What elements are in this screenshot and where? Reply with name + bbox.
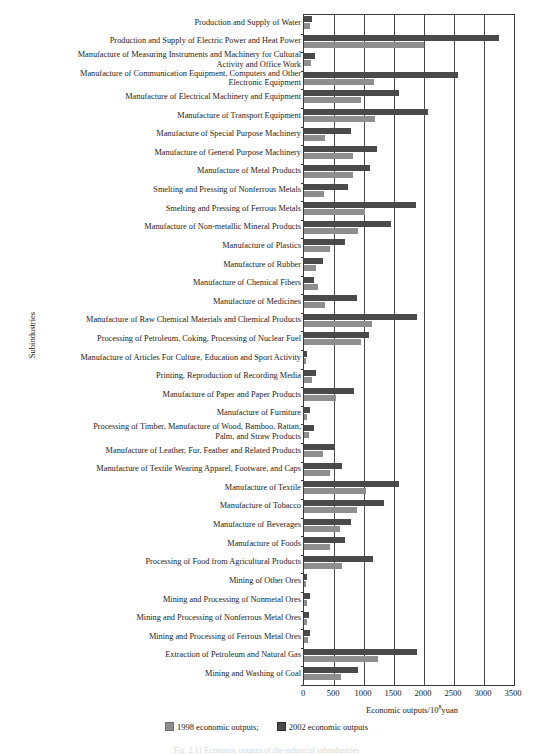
- category-label-line: Manufacture of Foods: [34, 539, 301, 549]
- bar-2002: [304, 593, 310, 599]
- category-label-line: Mining and Processing of Nonmetal Ores: [34, 595, 301, 605]
- category-label: Manufacture of Metal Products: [34, 166, 301, 176]
- bar-row: [304, 592, 514, 611]
- y-tickmark: [301, 462, 304, 463]
- bar-2002: [304, 146, 377, 152]
- y-tickmark: [301, 276, 304, 277]
- y-tickmark: [301, 313, 304, 314]
- bar-1998: [304, 60, 311, 66]
- bar-2002: [304, 630, 310, 636]
- bar-row: [304, 201, 514, 220]
- bar-2002: [304, 612, 309, 618]
- bar-row: [304, 294, 514, 313]
- bar-2002: [304, 128, 351, 134]
- x-tick-label: 2000: [415, 688, 432, 698]
- category-label: Mining and Processing of Ferrous Metal O…: [34, 632, 301, 642]
- bar-row: [304, 276, 514, 295]
- bar-2002: [304, 16, 312, 22]
- category-label: Mining and Processing of Nonferrous Meta…: [34, 613, 301, 623]
- category-label-line: Electronic Equipment: [34, 78, 301, 88]
- chart-figure: Subindustries Production and Supply of W…: [0, 0, 533, 754]
- category-label-line: Manufacture of Articles For Culture, Edu…: [34, 353, 301, 363]
- category-label-line: Printing, Reproduction of Recording Medi…: [34, 371, 301, 381]
- category-label-line: Manufacture of Leather, Fur, Feather and…: [34, 446, 301, 456]
- bar-2002: [304, 202, 416, 208]
- bar-row: [304, 350, 514, 369]
- category-label: Smelting and Pressing of Nonferrous Meta…: [34, 185, 301, 195]
- y-tickmark: [301, 369, 304, 370]
- bar-row: [304, 629, 514, 648]
- category-label: Manufacture of Medicines: [34, 297, 301, 307]
- bar-2002: [304, 72, 458, 78]
- bar-1998: [304, 414, 307, 420]
- bar-row: [304, 164, 514, 183]
- y-tickmark: [301, 164, 304, 165]
- category-label-line: Mining and Processing of Nonferrous Meta…: [34, 613, 301, 623]
- category-label-line: Manufacture of Medicines: [34, 297, 301, 307]
- bar-1998: [304, 265, 316, 271]
- category-label: Processing of Food from Agricultural Pro…: [34, 557, 301, 567]
- category-label-line: Processing of Food from Agricultural Pro…: [34, 557, 301, 567]
- bar-row: [304, 666, 514, 685]
- category-label: Manufacture of Non-metallic Mineral Prod…: [34, 222, 301, 232]
- bar-1998: [304, 209, 365, 215]
- bar-2002: [304, 388, 354, 394]
- category-label-line: Activity and Office Work: [34, 60, 301, 70]
- category-label-line: Smelting and Pressing of Ferrous Metals: [34, 204, 301, 214]
- bar-1998: [304, 470, 330, 476]
- bar-row: [304, 52, 514, 71]
- category-label-line: Manufacture of Metal Products: [34, 166, 301, 176]
- y-tickmark: [301, 34, 304, 35]
- bar-row: [304, 536, 514, 555]
- bar-1998: [304, 563, 342, 569]
- category-label-line: Manufacture of Raw Chemical Materials an…: [34, 315, 301, 325]
- category-label-line: Manufacture of Beverages: [34, 520, 301, 530]
- y-tickmark: [301, 52, 304, 53]
- bar-1998: [304, 302, 325, 308]
- y-tickmark: [301, 480, 304, 481]
- bar-2002: [304, 90, 399, 96]
- y-tickmark: [301, 443, 304, 444]
- category-label: Manufacture of Tobacco: [34, 501, 301, 511]
- bar-1998: [304, 23, 310, 29]
- bar-row: [304, 369, 514, 388]
- category-label: Extraction of Petroleum and Natural Gas: [34, 650, 301, 660]
- bar-2002: [304, 332, 369, 338]
- bar-1998: [304, 451, 323, 457]
- category-label: Manufacture of General Purpose Machinery: [34, 148, 301, 158]
- y-tickmark: [301, 406, 304, 407]
- category-label: Manufacture of Measuring Instruments and…: [34, 50, 301, 69]
- bar-row: [304, 127, 514, 146]
- bar-1998: [304, 600, 307, 606]
- y-tickmark: [301, 629, 304, 630]
- bar-1998: [304, 228, 358, 234]
- bar-row: [304, 648, 514, 667]
- bar-1998: [304, 153, 353, 159]
- category-label: Mining and Processing of Nonmetal Ores: [34, 595, 301, 605]
- bar-row: [304, 15, 514, 34]
- y-tickmark: [301, 424, 304, 425]
- y-tickmark: [301, 573, 304, 574]
- plot-area: [303, 14, 515, 686]
- bar-row: [304, 34, 514, 53]
- category-label: Manufacture of Electrical Machinery and …: [34, 92, 301, 102]
- category-label: Processing of Timber, Manufacture of Woo…: [34, 422, 301, 441]
- bar-1998: [304, 191, 324, 197]
- category-label: Mining of Other Ores: [34, 576, 301, 586]
- bar-1998: [304, 637, 308, 643]
- category-label-line: Manufacture of Paper and Paper Products: [34, 390, 301, 400]
- bar-row: [304, 71, 514, 90]
- category-label-line: Manufacture of Communication Equipment, …: [34, 69, 301, 79]
- y-tickmark: [301, 257, 304, 258]
- bar-1998: [304, 42, 424, 48]
- bar-row: [304, 145, 514, 164]
- category-label: Manufacture of Rubber: [34, 260, 301, 270]
- category-label-line: Manufacture of Furniture: [34, 408, 301, 418]
- category-label-line: Manufacture of Rubber: [34, 260, 301, 270]
- bar-2002: [304, 165, 370, 171]
- y-tickmark: [301, 387, 304, 388]
- category-label-line: Mining and Processing of Ferrous Metal O…: [34, 632, 301, 642]
- bar-2002: [304, 425, 314, 431]
- category-label: Printing, Reproduction of Recording Medi…: [34, 371, 301, 381]
- bar-row: [304, 424, 514, 443]
